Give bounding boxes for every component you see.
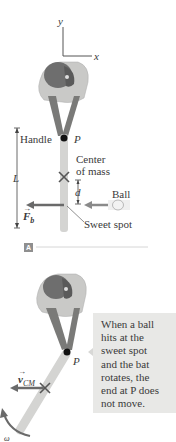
- callout-line: and the bat: [101, 358, 170, 371]
- ball-label: Ball: [112, 188, 130, 200]
- pivot-point-a: [61, 135, 68, 142]
- vector-arrow-icon: →: [18, 366, 26, 378]
- omega-label: ω: [4, 433, 10, 442]
- callout-line: rotates, the: [101, 371, 170, 384]
- panel-a-badge: A: [24, 243, 33, 252]
- sweet-spot-label: Sweet spot: [84, 218, 132, 230]
- vector-arrow-icon: →: [23, 203, 31, 215]
- center-of-mass-label-line1: Center: [76, 153, 105, 165]
- center-of-mass-label-line2: of mass: [76, 165, 110, 177]
- callout-line: sweet spot: [101, 344, 170, 357]
- handle-label: Handle: [20, 133, 52, 145]
- y-axis-label: y: [58, 15, 63, 27]
- axes-icon: [63, 27, 92, 56]
- callout-line: not move.: [101, 397, 170, 410]
- sweet-spot-leader: [67, 206, 84, 222]
- ball-icon: [113, 200, 124, 210]
- force-label: →Fb: [23, 210, 34, 227]
- pivot-point-b: [64, 349, 71, 356]
- x-axis-label: x: [94, 50, 99, 62]
- batter-figure-a: [39, 62, 89, 136]
- batter-figure-b: [37, 274, 87, 350]
- force-arrow-icon: [26, 201, 64, 209]
- length-label: L: [13, 172, 19, 184]
- callout-line: end at P does: [101, 384, 170, 397]
- pivot-label-b: P: [73, 355, 80, 367]
- callout-line: hits at the: [101, 331, 170, 344]
- distance-label: d: [75, 186, 81, 198]
- bat-b: [20, 354, 66, 430]
- pivot-label-a: P: [74, 133, 81, 145]
- callout-line: When a ball: [101, 318, 170, 331]
- bat-a: [60, 134, 68, 232]
- velocity-cm-label: →vCM: [18, 373, 35, 390]
- callout-box: When a ball hits at the sweet spot and t…: [93, 313, 176, 413]
